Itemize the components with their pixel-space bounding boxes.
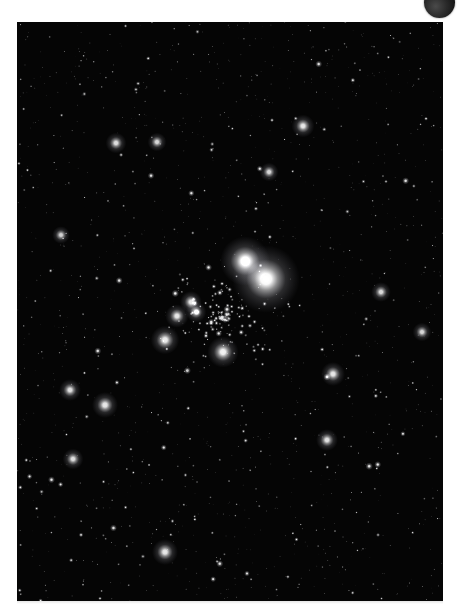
page-canvas: [0, 0, 460, 615]
photo-edge-shadow: [17, 601, 443, 604]
dark-disc-ornament: [424, 0, 455, 18]
starfield-image: [17, 22, 443, 601]
star-cluster-photograph: [17, 22, 443, 601]
